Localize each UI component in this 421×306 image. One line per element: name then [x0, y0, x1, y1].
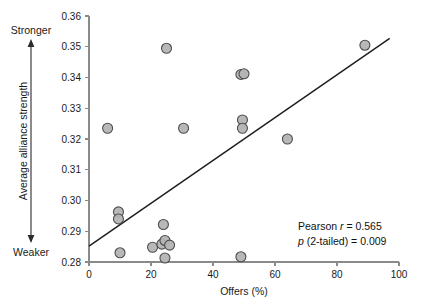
y-tick-label: 0.35: [62, 41, 82, 52]
data-point: [179, 123, 189, 133]
x-tick-label: 100: [391, 269, 408, 280]
x-axis-title: Offers (%): [220, 285, 268, 297]
x-axis-ticks: 020406080100: [86, 262, 408, 280]
y-axis-pole-bottom-label: Weaker: [13, 246, 49, 258]
y-tick-label: 0.32: [62, 134, 82, 145]
plot-canvas: Stronger Average alliance strength Weake…: [0, 0, 421, 306]
y-tick-label: 0.29: [62, 226, 82, 237]
p-value-annotation: p (2-tailed) = 0.009: [297, 235, 387, 247]
data-point: [113, 214, 123, 224]
data-point: [236, 252, 246, 262]
y-tick-label: 0.34: [62, 72, 82, 83]
y-tick-label: 0.33: [62, 103, 82, 114]
y-axis-pole-top-label: Stronger: [11, 24, 52, 36]
data-point: [160, 253, 170, 263]
x-tick-label: 20: [145, 269, 157, 280]
data-point: [360, 40, 370, 50]
y-tick-label: 0.28: [62, 257, 82, 268]
data-point: [282, 134, 292, 144]
data-point: [115, 248, 125, 258]
x-tick-label: 0: [86, 269, 92, 280]
y-tick-label: 0.30: [62, 195, 82, 206]
data-point: [103, 123, 113, 133]
data-point: [158, 219, 168, 229]
y-tick-label: 0.31: [62, 164, 82, 175]
y-tick-label: 0.36: [62, 11, 82, 22]
data-point: [237, 123, 247, 133]
x-tick-label: 80: [331, 269, 343, 280]
data-point: [148, 242, 158, 252]
scatter-plot-figure: Stronger Average alliance strength Weake…: [0, 0, 421, 306]
pearson-r-annotation: Pearson r = 0.565: [298, 220, 382, 232]
x-tick-label: 60: [269, 269, 281, 280]
data-point: [165, 240, 175, 250]
y-axis-ticks: 0.280.290.300.310.320.330.340.350.36: [62, 11, 89, 268]
x-tick-label: 40: [207, 269, 219, 280]
y-axis-title: Average alliance strength: [17, 82, 29, 200]
data-point: [239, 69, 249, 79]
data-point: [162, 43, 172, 53]
